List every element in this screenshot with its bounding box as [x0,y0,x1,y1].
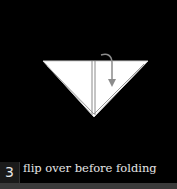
step-caption: flip over before folding [23,160,157,176]
instruction-panel: 3 flip over before folding [0,0,177,183]
step-number-badge: 3 [0,162,20,183]
origami-diagram [0,0,177,183]
bottom-divider [0,183,177,189]
